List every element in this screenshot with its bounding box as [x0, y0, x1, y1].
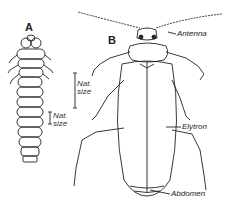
beetle-drawing	[74, 12, 222, 196]
panel-b-letter: B	[108, 35, 116, 46]
label-elytron: Elytron	[182, 123, 207, 131]
scale-label-b: Nat. size	[77, 80, 92, 97]
label-antenna: Antenna	[177, 30, 207, 38]
panel-a-letter: A	[25, 22, 33, 33]
label-abdomen: Abdomen	[171, 190, 205, 198]
scale-label-a: Nat. size	[53, 112, 68, 129]
scale-label-b-line2: size	[77, 88, 92, 96]
scale-label-a-line2: size	[53, 120, 68, 128]
larva-drawing	[8, 35, 53, 162]
scale-bar-a	[48, 112, 52, 124]
